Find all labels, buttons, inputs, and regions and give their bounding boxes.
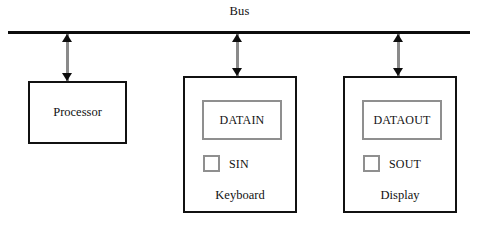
arrowhead-down-icon: [393, 68, 403, 76]
datain-register: DATAIN: [202, 100, 282, 140]
sin-flag-box: [203, 155, 220, 172]
arrowhead-up-icon: [393, 34, 403, 42]
display-bus-link: [393, 34, 404, 76]
sout-flag-box: [363, 155, 380, 172]
processor-box: Processor: [28, 81, 127, 144]
keyboard-bus-link: [232, 34, 243, 76]
display-caption: Display: [345, 188, 455, 203]
sin-flag-label: SIN: [229, 157, 249, 172]
arrowhead-up-icon: [62, 34, 72, 42]
arrowhead-down-icon: [62, 73, 72, 81]
processor-bus-link: [62, 34, 73, 81]
bus-label: Bus: [0, 4, 479, 19]
sout-flag-label: SOUT: [389, 157, 421, 172]
display-box: DATAOUT SOUT Display: [343, 76, 457, 213]
bus-io-diagram: Bus Processor DATAIN SIN Keyboard DATAOU…: [0, 0, 479, 232]
keyboard-caption: Keyboard: [185, 188, 295, 203]
arrowhead-down-icon: [232, 68, 242, 76]
dataout-register: DATAOUT: [362, 100, 442, 140]
processor-label: Processor: [30, 83, 125, 142]
keyboard-box: DATAIN SIN Keyboard: [183, 76, 297, 213]
arrowhead-up-icon: [232, 34, 242, 42]
